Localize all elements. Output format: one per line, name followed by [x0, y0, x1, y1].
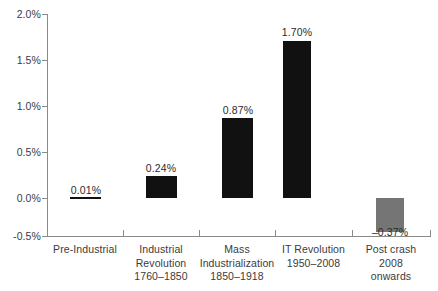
- x-axis-category-line: Mass: [199, 243, 275, 257]
- y-axis-label-1.5-wrap: 1.5%: [0, 55, 41, 66]
- y-axis-label-0.0: 0.0%: [1, 193, 41, 204]
- y-axis-label-0.0-wrap: 0.0%: [0, 193, 41, 204]
- y-axis-line: [47, 14, 48, 237]
- x-axis-category-industrial-revolution: Industrial Revolution 1760–1850: [123, 243, 199, 284]
- y-axis-tick-2.0: [42, 14, 48, 15]
- x-axis-tick-3: [275, 230, 276, 237]
- x-axis-category-line: Industrial: [123, 243, 199, 257]
- bar-mass-industrialization: [222, 118, 253, 198]
- x-axis-category-line: 2008: [352, 257, 430, 271]
- y-axis-tick-1.5: [42, 60, 48, 61]
- x-axis-category-line: Post crash: [352, 243, 430, 257]
- x-axis-tick-5: [430, 230, 431, 237]
- bar-pre-industrial: [70, 197, 101, 199]
- x-axis-category-mass-industrialization: Mass Industrialization 1850–1918: [199, 243, 275, 284]
- bar-it-revolution: [283, 41, 311, 198]
- x-axis-category-line: 1950–2008: [275, 257, 352, 271]
- bar-industrial-revolution: [146, 176, 177, 198]
- x-axis-category-line: Industrialization: [199, 257, 275, 271]
- x-axis-category-post-crash: Post crash 2008 onwards: [352, 243, 430, 284]
- x-axis-category-it-revolution: IT Revolution 1950–2008: [275, 243, 352, 270]
- y-axis-label-1.0: 1.0%: [1, 101, 41, 112]
- x-axis-tick-1: [123, 230, 124, 237]
- y-axis-tick-1.0: [42, 106, 48, 107]
- bar-value-pre-industrial: 0.01%: [56, 184, 116, 196]
- bar-value-post-crash: –0.37%: [360, 226, 420, 238]
- x-axis-category-line: onwards: [352, 270, 430, 284]
- y-axis-label--0.5-wrap: -0.5%: [0, 231, 41, 242]
- bar-value-mass-industrialization: 0.87%: [208, 104, 268, 116]
- x-axis-tick-0: [47, 230, 48, 237]
- y-axis-label-2.0: 2.0%: [1, 9, 41, 20]
- y-axis-label--0.5: -0.5%: [1, 231, 41, 242]
- y-axis-label-2.0-wrap: 2.0%: [0, 9, 41, 20]
- x-axis-category-line: IT Revolution: [275, 243, 352, 257]
- x-axis-category-line: Pre-Industrial: [47, 243, 123, 257]
- y-axis-tick-0.0: [42, 198, 48, 199]
- bar-value-industrial-revolution: 0.24%: [131, 162, 191, 174]
- y-axis-tick-0.5: [42, 152, 48, 153]
- x-axis-tick-4: [352, 230, 353, 237]
- bar-chart: 2.0% 1.5% 1.0% 0.5% 0.0% -0.5% 0.01% 0.2…: [0, 0, 438, 291]
- y-axis-label-0.5-wrap: 0.5%: [0, 147, 41, 158]
- y-axis-label-1.0-wrap: 1.0%: [0, 101, 41, 112]
- y-axis-label-1.5: 1.5%: [1, 55, 41, 66]
- x-axis-category-line: 1760–1850: [123, 270, 199, 284]
- x-axis-category-line: 1850–1918: [199, 270, 275, 284]
- x-axis-category-line: Revolution: [123, 257, 199, 271]
- bar-value-it-revolution: 1.70%: [267, 26, 327, 38]
- y-axis-label-0.5: 0.5%: [1, 147, 41, 158]
- x-axis-tick-2: [199, 230, 200, 237]
- x-axis-category-pre-industrial: Pre-Industrial: [47, 243, 123, 257]
